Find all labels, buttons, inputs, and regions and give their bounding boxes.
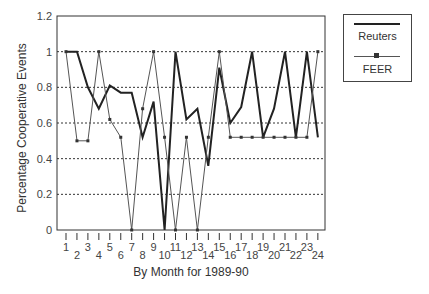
feer-marker-icon bbox=[108, 118, 111, 121]
feer-marker-icon bbox=[218, 50, 221, 53]
feer-marker-icon bbox=[251, 136, 254, 139]
feer-marker-icon bbox=[119, 136, 122, 139]
x-tick-label: 2 bbox=[74, 249, 80, 261]
x-tick-label: 5 bbox=[107, 241, 113, 253]
y-tick-label: 0.2 bbox=[37, 188, 52, 200]
x-tick-label: 6 bbox=[118, 249, 124, 261]
x-tick-label: 4 bbox=[96, 249, 102, 261]
feer-marker-icon bbox=[229, 136, 232, 139]
y-axis-label: Percentage Cooperative Events bbox=[15, 43, 29, 212]
legend-reuters-label: Reuters bbox=[344, 30, 411, 42]
feer-marker-icon bbox=[284, 136, 287, 139]
y-tick-label: 0 bbox=[46, 224, 52, 236]
feer-marker-icon bbox=[75, 139, 78, 142]
feer-marker-icon bbox=[163, 136, 166, 139]
x-tick-label: 7 bbox=[129, 241, 135, 253]
feer-marker-icon bbox=[86, 139, 89, 142]
feer-marker-icon bbox=[294, 136, 297, 139]
data-series bbox=[65, 50, 320, 231]
feer-marker-icon bbox=[262, 136, 265, 139]
y-tick-label: 1 bbox=[46, 46, 52, 58]
x-axis-ticks: 123456789101112131415161718192021222324 bbox=[63, 233, 324, 261]
x-tick-label: 3 bbox=[85, 241, 91, 253]
legend-feer-label: FEER bbox=[344, 63, 411, 75]
feer-marker-icon bbox=[207, 136, 210, 139]
y-tick-label: 1.2 bbox=[37, 10, 52, 22]
y-tick-label: 0.8 bbox=[37, 81, 52, 93]
series-reuters-line bbox=[66, 52, 318, 230]
feer-marker-icon bbox=[316, 50, 319, 53]
feer-marker-icon bbox=[273, 136, 276, 139]
y-tick-label: 0.6 bbox=[37, 117, 52, 129]
x-tick-label: 9 bbox=[151, 241, 157, 253]
y-tick-label: 0.4 bbox=[37, 153, 52, 165]
feer-marker-icon bbox=[185, 136, 188, 139]
feer-marker-icon bbox=[141, 107, 144, 110]
feer-marker-icon bbox=[305, 136, 308, 139]
feer-marker-icon bbox=[152, 50, 155, 53]
legend: Reuters FEER bbox=[343, 14, 412, 82]
feer-marker-icon bbox=[97, 50, 100, 53]
feer-marker-icon bbox=[65, 50, 68, 53]
feer-marker-icon bbox=[240, 136, 243, 139]
x-tick-label: 1 bbox=[63, 241, 69, 253]
x-tick-label: 8 bbox=[140, 249, 146, 261]
legend-feer-marker-icon bbox=[374, 53, 379, 58]
y-axis-ticks: 00.20.40.60.811.2 bbox=[37, 10, 52, 236]
x-axis-label: By Month for 1989-90 bbox=[133, 265, 248, 279]
x-tick-label: 24 bbox=[312, 249, 324, 261]
legend-reuters-line-icon bbox=[354, 23, 400, 25]
